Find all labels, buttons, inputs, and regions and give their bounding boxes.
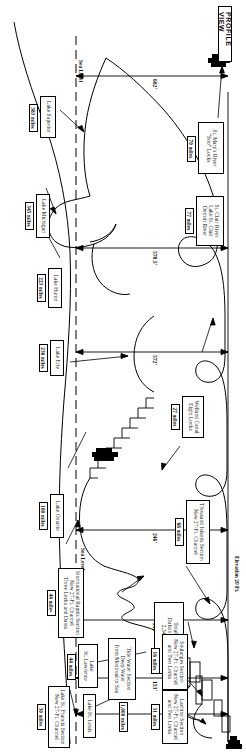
tide-water-section-box: Tide Water Section Deep Water from Montr… xyxy=(108,638,136,700)
elevation-572: 572' xyxy=(152,355,158,365)
section-miles-lake-michigan: 345 miles xyxy=(25,202,34,230)
ship-silhouette-welland xyxy=(92,448,118,461)
lake-superior-basin xyxy=(84,58,106,196)
sea-level-label-right: Sea Level xyxy=(80,548,86,570)
section-miles-lake-ontario: 180 miles xyxy=(39,502,48,530)
section-box-lachine: Lachine Section New 27-Ft. Channel and T… xyxy=(162,690,188,744)
page-title: PROFILE VIEW xyxy=(218,6,232,62)
section-miles-lake-superior: 383 miles xyxy=(29,104,38,132)
section-box-st-marys-river: St. Mary's River “Soo” Locks xyxy=(198,122,224,174)
section-miles-st-clair-detroit: 77 miles xyxy=(185,208,194,234)
profile-view-diagram: PROFILE VIEW Sea Level Sea Level Elevati… xyxy=(0,0,246,752)
section-label-tide-water: Tide Water Section Deep Water from Montr… xyxy=(113,645,130,693)
elevation-246: 246' xyxy=(152,533,158,543)
sea-level-label-left: Sea Level xyxy=(78,60,84,82)
elevation-602: 602' xyxy=(152,79,158,89)
welland-canal-locks xyxy=(90,398,154,478)
section-miles-lake-erie: 236 miles xyxy=(39,344,48,372)
section-box-tide-water-final xyxy=(92,604,94,607)
section-label-welland-canal: Welland Canal Eight Locks xyxy=(187,400,199,433)
section-miles-lake-st-francis: 30 miles xyxy=(37,704,46,730)
section-box-soulanges-real: Soulanges Section New 27-Ft. Channel and… xyxy=(162,634,188,690)
section-box-thousand-islands: Thousand Islands Section New 27-Ft. Chan… xyxy=(186,500,210,564)
section-box-lake-erie: Lake Erie xyxy=(50,340,64,376)
section-box-soulanges-callout xyxy=(48,610,50,613)
section-label-st-marys-river: St. Mary's River “Soo” Locks xyxy=(205,130,217,167)
elevation-153: 153' xyxy=(152,681,158,691)
section-label-international-rapids: International Rapids Section New 27-Ft. … xyxy=(62,571,79,635)
elevation-578-5: 578.5' xyxy=(152,251,158,265)
elevation-20ft-label: Elevation 20 Ft. xyxy=(234,556,240,592)
lake-michigan-lobe xyxy=(49,196,117,248)
section-label-lake-ontario: Lake Ontario xyxy=(54,501,60,531)
section-box-lake-st-lawrence: Lake St. Lawrence xyxy=(78,644,98,688)
section-box-lake-huron: Lake Huron xyxy=(48,268,62,308)
section-box-lake-st-louis: Lake St. Louis xyxy=(83,694,96,738)
section-miles-tide-water: 1,000 miles xyxy=(119,702,128,732)
section-miles-soulanges: 16 miles xyxy=(151,648,160,674)
lake-erie-basin xyxy=(134,316,154,392)
section-miles-thousand-islands: 68 miles xyxy=(175,518,184,546)
section-box-lake-st-francis: Lake St. Francis Section New 27-Ft. Chan… xyxy=(48,686,70,748)
section-label-lake-st-lawrence: Lake St. Lawrence xyxy=(82,651,94,681)
lake-huron-basin xyxy=(92,244,130,295)
section-box-welland-canal: Welland Canal Eight Locks xyxy=(182,396,204,438)
section-label-lake-superior: Lake Superior xyxy=(45,101,51,133)
section-box-lake-ontario: Lake Ontario xyxy=(50,494,64,538)
section-box-soulanges xyxy=(80,632,82,635)
section-label-lake-st-louis: Lake St. Louis xyxy=(87,700,93,733)
section-label-lake-huron: Lake Huron xyxy=(52,275,58,302)
section-box-st-clair-detroit: St. Clair River Lake St. Clair Detroit R… xyxy=(196,196,224,246)
section-label-thousand-islands: Thousand Islands Section New 27-Ft. Chan… xyxy=(192,503,204,561)
section-box-lake-michigan: Lake Michigan xyxy=(36,194,50,238)
section-label-lake-michigan: Lake Michigan xyxy=(40,199,46,233)
section-label-soulanges: Soulanges Section New 27-Ft. Channel and… xyxy=(166,639,183,685)
section-miles-lachine: 31 miles xyxy=(151,704,160,730)
section-box-lake-superior: Lake Superior xyxy=(40,96,56,138)
section-label-st-clair-detroit: St. Clair River Lake St. Clair Detroit R… xyxy=(201,205,218,238)
section-miles-lake-st-lawrence: 44 miles xyxy=(67,654,76,680)
section-miles-welland-canal: 27 miles xyxy=(171,404,180,430)
section-box-international-rapids: International Rapids Section New 27-Ft. … xyxy=(58,568,84,638)
section-miles-st-marys-river: 70 miles xyxy=(187,136,196,162)
section-miles-lake-huron: 223 miles xyxy=(37,274,46,302)
section-label-lake-erie: Lake Erie xyxy=(54,347,60,369)
section-label-lachine: Lachine Section New 27-Ft. Channel and T… xyxy=(166,694,183,740)
section-label-lake-st-francis: Lake St. Francis Section New 27-Ft. Chan… xyxy=(53,689,65,744)
